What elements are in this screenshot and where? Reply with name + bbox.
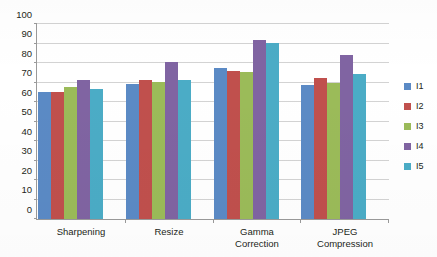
chart-legend: I1I2I3I4I5 (404, 82, 424, 171)
y-axis-tick-label: 30 (21, 146, 32, 156)
y-axis-tick-label: 50 (21, 107, 32, 117)
x-axis-label: Sharpening (37, 226, 125, 250)
y-axis-tick-mark (34, 23, 37, 24)
legend-item-label: I5 (416, 162, 424, 171)
legend-item-label: I1 (416, 82, 424, 91)
y-axis-tick-mark (34, 62, 37, 63)
legend-swatch-icon (404, 83, 411, 90)
category-separator (300, 219, 301, 223)
bar (301, 85, 314, 219)
bar (227, 71, 240, 219)
bar-group (38, 24, 126, 219)
bar (165, 62, 178, 219)
plot-area: 0102030405060708090100 (36, 24, 389, 220)
legend-swatch-icon (404, 123, 411, 130)
legend-item-label: I3 (416, 122, 424, 131)
y-axis-tick-label: 20 (21, 166, 32, 176)
legend-swatch-icon (404, 103, 411, 110)
bar (38, 92, 51, 219)
bar (327, 83, 340, 219)
bar-group (301, 24, 389, 219)
y-axis-tick-mark (34, 179, 37, 180)
bar (353, 74, 366, 219)
y-axis-tick-mark (34, 82, 37, 83)
legend-item[interactable]: I2 (404, 102, 424, 111)
x-axis-label-line: Correction (213, 238, 301, 250)
bar (51, 92, 64, 219)
legend-item[interactable]: I3 (404, 122, 424, 131)
x-axis-label: JPEGCompression (301, 226, 389, 250)
bar (77, 80, 90, 219)
y-axis-tick-mark (34, 218, 37, 219)
y-axis-tick-mark (34, 43, 37, 44)
bar (314, 78, 327, 219)
bar (126, 84, 139, 219)
y-axis-tick-mark (34, 199, 37, 200)
category-separator (388, 219, 389, 223)
x-axis-label: GammaCorrection (213, 226, 301, 250)
y-axis-tick-mark (34, 101, 37, 102)
bar (64, 87, 77, 219)
category-separator (213, 219, 214, 223)
legend-item[interactable]: I1 (404, 82, 424, 91)
legend-item-label: I4 (416, 142, 424, 151)
bar-group (126, 24, 214, 219)
x-axis-label-line: Compression (301, 238, 389, 250)
legend-swatch-icon (404, 143, 411, 150)
x-axis-label-line: Gamma (213, 226, 301, 238)
bar (253, 40, 266, 219)
y-axis-tick-label: 40 (21, 127, 32, 137)
bar (152, 82, 165, 219)
legend-item-label: I2 (416, 102, 424, 111)
bar-group (214, 24, 302, 219)
legend-swatch-icon (404, 163, 411, 170)
y-axis-tick-mark (34, 140, 37, 141)
bar-chart: 0102030405060708090100 SharpeningResizeG… (0, 0, 437, 257)
bar (266, 43, 279, 219)
y-axis-tick-label: 10 (21, 185, 32, 195)
bar (139, 80, 152, 219)
bar (178, 80, 191, 219)
legend-item[interactable]: I5 (404, 162, 424, 171)
y-axis-tick-mark (34, 121, 37, 122)
bar (240, 72, 253, 219)
y-axis-tick-label: 100 (16, 10, 32, 20)
x-axis-label: Resize (125, 226, 213, 250)
bar (90, 89, 103, 219)
y-axis-tick-label: 80 (21, 49, 32, 59)
y-axis-tick-label: 70 (21, 68, 32, 78)
x-axis-labels: SharpeningResizeGammaCorrectionJPEGCompr… (37, 226, 389, 250)
legend-item[interactable]: I4 (404, 142, 424, 151)
category-separator (125, 219, 126, 223)
x-axis-label-line: Sharpening (37, 226, 125, 238)
y-axis-tick-mark (34, 160, 37, 161)
y-axis-tick-label: 90 (21, 29, 32, 39)
bar (214, 68, 227, 219)
x-axis-label-line: JPEG (301, 226, 389, 238)
y-axis-tick-label: 60 (21, 88, 32, 98)
y-axis-tick-label: 0 (27, 205, 32, 215)
bar-groups (38, 24, 389, 219)
x-axis-label-line: Resize (125, 226, 213, 238)
bar (340, 55, 353, 219)
